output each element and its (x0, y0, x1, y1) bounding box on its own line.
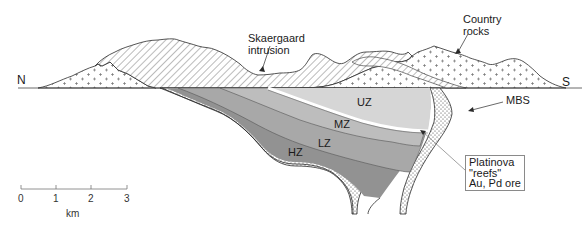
reef-label-line1: Platinova (469, 157, 521, 168)
platinova-reef-label-box: Platinova "reefs" Au, Pd ore (465, 155, 525, 191)
label-hz: HZ (288, 146, 303, 158)
label-country-line2: rocks (463, 25, 502, 37)
label-uz: UZ (357, 96, 372, 108)
label-mz: MZ (334, 118, 350, 130)
scale-tick-1: 1 (53, 193, 59, 205)
arrow-skaergaard (259, 66, 265, 72)
scale-unit: km (66, 208, 79, 220)
scale-tick-2: 2 (88, 193, 94, 205)
leader-mbs (472, 102, 503, 110)
scale-tick-0: 0 (18, 193, 24, 205)
label-country-rocks: Country rocks (463, 13, 502, 37)
arrow-mbs (468, 107, 474, 112)
label-skaergaard-intrusion: Skaergaard intrusion (248, 32, 305, 56)
label-lz: LZ (318, 137, 331, 149)
label-mbs: MBS (506, 94, 530, 106)
scale-tick-3: 3 (124, 193, 130, 205)
label-skaergaard-line2: intrusion (248, 44, 305, 56)
label-north: N (17, 74, 26, 86)
label-skaergaard-line1: Skaergaard (248, 32, 305, 44)
label-south: S (562, 76, 570, 88)
label-country-line1: Country (463, 13, 502, 25)
scale-bar (21, 185, 127, 189)
reef-label-line3: Au, Pd ore (469, 178, 521, 189)
feeder-conduit (368, 198, 380, 214)
